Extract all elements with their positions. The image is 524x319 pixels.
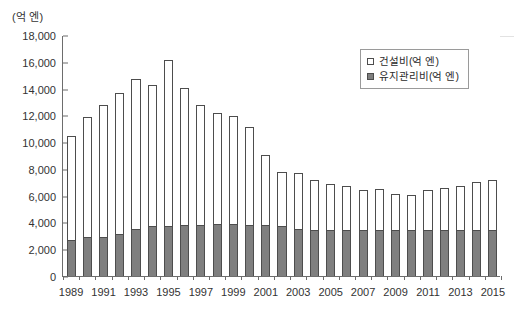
x-axis-tickmark: [436, 276, 437, 280]
x-axis-tickmark: [177, 276, 178, 280]
bar-1995: [164, 60, 173, 276]
bar-segment-maintenance: [213, 224, 222, 276]
bar-2011: [423, 190, 432, 276]
y-axis-tick-label: 8,000: [28, 164, 63, 175]
bar-segment-maintenance: [391, 230, 400, 276]
bar-2007: [359, 190, 368, 276]
bar-segment-maintenance: [83, 237, 92, 276]
x-axis-tickmark: [274, 276, 275, 280]
bar-2006: [342, 186, 351, 276]
x-axis-tick-label: 2015: [481, 286, 505, 298]
x-axis-tickmark: [452, 276, 453, 280]
bar-segment-maintenance: [245, 225, 254, 276]
chart-legend: 건설비(억 엔)유지관리비(억 엔): [360, 49, 469, 89]
x-axis-tickmark: [420, 276, 421, 280]
x-axis-tickmark: [209, 276, 210, 280]
bar-segment-construction: [213, 113, 222, 225]
bar-segment-construction: [294, 173, 303, 229]
bar-segment-maintenance: [196, 225, 205, 276]
x-axis-tick-label: 2001: [254, 286, 278, 298]
bar-1992: [115, 93, 124, 276]
x-axis-tickmark: [225, 276, 226, 280]
bar-segment-maintenance: [440, 230, 449, 276]
y-axis-tick-label: 6,000: [28, 191, 63, 202]
bar-segment-maintenance: [456, 230, 465, 276]
x-axis-tick-label: 1997: [189, 286, 213, 298]
x-axis-tick-label: 1989: [59, 286, 83, 298]
bar-1999: [229, 116, 238, 276]
y-axis-tick-label: 12,000: [22, 111, 63, 122]
x-axis-tickmark: [160, 276, 161, 280]
x-axis-tickmark: [339, 276, 340, 280]
bar-2008: [375, 189, 384, 276]
bar-segment-construction: [83, 117, 92, 237]
x-axis-tickmark: [387, 276, 388, 280]
y-axis-unit-label: (억 엔): [12, 11, 43, 23]
x-axis-tickmark: [469, 276, 470, 280]
bar-segment-construction: [277, 172, 286, 227]
bar-1993: [131, 79, 140, 276]
x-axis-tick-label: 1993: [124, 286, 148, 298]
x-axis-tickmark: [501, 276, 502, 280]
x-axis-tick-label: 2011: [416, 286, 440, 298]
bar-segment-maintenance: [423, 230, 432, 276]
bar-segment-construction: [359, 190, 368, 231]
bar-segment-maintenance: [342, 230, 351, 276]
bar-1990: [83, 117, 92, 276]
bar-1996: [180, 88, 189, 276]
x-axis-tickmark: [485, 276, 486, 280]
x-axis-tickmark: [290, 276, 291, 280]
x-axis-tick-label: 2009: [383, 286, 407, 298]
x-axis-tick-label: 2003: [286, 286, 310, 298]
bar-segment-construction: [196, 105, 205, 226]
bar-segment-maintenance: [99, 237, 108, 276]
bar-1989: [67, 136, 76, 276]
bar-2014: [472, 182, 481, 276]
bar-2002: [277, 172, 286, 276]
bar-segment-construction: [310, 180, 319, 231]
bar-segment-construction: [99, 105, 108, 237]
bar-1994: [148, 85, 157, 276]
bar-2015: [488, 180, 497, 276]
x-axis-tickmark: [144, 276, 145, 280]
bar-segment-maintenance: [375, 230, 384, 276]
legend-swatch-icon: [367, 73, 374, 80]
bar-2000: [245, 127, 254, 276]
bar-segment-maintenance: [261, 225, 270, 276]
x-axis-tickmark: [371, 276, 372, 280]
bar-segment-construction: [326, 184, 335, 231]
bar-segment-maintenance: [294, 229, 303, 276]
x-axis-tick-label: 1995: [156, 286, 180, 298]
bar-2004: [310, 180, 319, 276]
x-axis-tickmark: [404, 276, 405, 280]
bar-segment-maintenance: [310, 230, 319, 276]
bar-2010: [407, 195, 416, 276]
y-axis-tick-label: 4,000: [28, 218, 63, 229]
bar-segment-maintenance: [407, 230, 416, 276]
bar-2009: [391, 194, 400, 276]
bar-segment-construction: [472, 182, 481, 230]
x-axis-tickmark: [355, 276, 356, 280]
x-axis-tickmark: [95, 276, 96, 280]
bar-2013: [456, 186, 465, 276]
bar-segment-construction: [164, 60, 173, 225]
y-axis-tick-label: 0: [50, 272, 63, 283]
bar-segment-construction: [375, 189, 384, 231]
x-axis-tickmark: [79, 276, 80, 280]
bar-segment-construction: [131, 79, 140, 229]
bar-1997: [196, 105, 205, 276]
bar-segment-construction: [115, 93, 124, 234]
bar-segment-maintenance: [180, 225, 189, 276]
legend-item: 건설비(억 엔): [367, 54, 459, 69]
bar-1998: [213, 113, 222, 276]
x-axis-tick-label: 2013: [448, 286, 472, 298]
bar-1991: [99, 105, 108, 276]
x-axis-tickmark: [323, 276, 324, 280]
x-axis-tick-label: 2005: [318, 286, 342, 298]
bar-segment-maintenance: [359, 230, 368, 276]
bar-segment-maintenance: [472, 230, 481, 276]
x-axis-tickmark: [128, 276, 129, 280]
bar-segment-maintenance: [229, 224, 238, 276]
bar-segment-construction: [342, 186, 351, 231]
x-axis-tick-label: 1991: [91, 286, 115, 298]
